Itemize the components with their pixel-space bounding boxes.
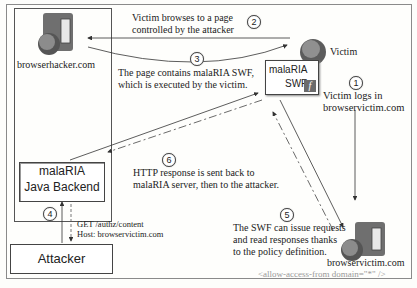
malaria-swf-box: malaRIA SWF f (265, 60, 319, 95)
browserhacker-label: browserhacker.com (17, 59, 95, 71)
attacker-label: Attacker (38, 251, 86, 266)
step-3-text: The page contains malaRIA SWF,which is e… (118, 67, 254, 91)
server-globe-icon (38, 13, 73, 55)
step-6-text: HTTP response is sent back tomalaRIA ser… (133, 167, 279, 191)
flash-icon: f (304, 80, 316, 92)
crossdomain-policy-text: <allow-access-from domain="*" /> (258, 268, 386, 280)
backend-label-line2: Java Backend (20, 179, 104, 195)
step-3-badge: 3 (190, 52, 204, 66)
malaria-backend-box: malaRIA Java Backend (19, 162, 105, 202)
step-6-badge: 6 (162, 153, 176, 167)
attacker-box: Attacker (10, 244, 113, 274)
step-2-badge: 2 (247, 15, 261, 29)
malaria-attack-diagram: browserhacker.com Victim malaRIA SWF f m… (0, 0, 417, 288)
step-2-text: Victim browses to a pagecontrolled by th… (132, 12, 234, 36)
server-globe-icon (341, 222, 385, 261)
victim-label: Victim (330, 46, 357, 58)
step-5-text: The SWF can issue requestsand read respo… (233, 222, 346, 258)
swf-label-line1: malaRIA (269, 64, 307, 75)
backend-label-line1: malaRIA (20, 163, 104, 179)
step-1-text: Victim logs inbrowservictim.com (323, 90, 404, 114)
step-5-badge: 5 (280, 208, 294, 222)
step-4-text: GET /authz/contentHost: browservictim.co… (77, 219, 163, 239)
step-1-badge: 1 (349, 76, 363, 90)
step-4-badge: 4 (43, 207, 57, 221)
